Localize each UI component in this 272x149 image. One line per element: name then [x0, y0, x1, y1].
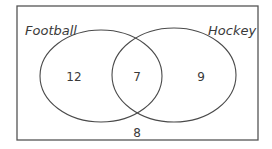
football-label: Football: [25, 23, 77, 38]
venn-diagram: Football Hockey 12 7 9 8: [0, 0, 272, 149]
football-set-ellipse: [40, 30, 162, 122]
hockey-label: Hockey: [208, 23, 256, 38]
football-only-count: 12: [66, 70, 81, 84]
hockey-set-ellipse: [112, 28, 236, 122]
intersection-count: 7: [133, 70, 141, 84]
neither-count: 8: [133, 126, 141, 140]
hockey-only-count: 9: [197, 70, 205, 84]
